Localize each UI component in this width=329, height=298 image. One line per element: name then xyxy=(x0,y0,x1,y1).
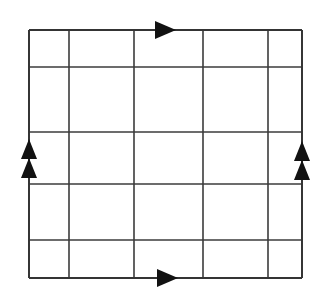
identification-square-diagram xyxy=(0,0,329,298)
canvas-background xyxy=(0,0,329,298)
figure-root xyxy=(0,0,329,298)
